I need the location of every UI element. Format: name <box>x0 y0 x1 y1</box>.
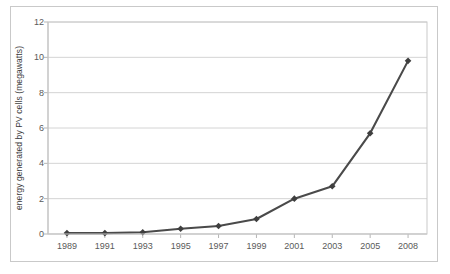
x-axis-tick-labels: 1989199119931995199719992001200320052008 <box>0 241 450 257</box>
x-tick-marks <box>67 234 408 238</box>
y-tick-label: 6 <box>20 123 44 133</box>
line-chart <box>0 0 450 274</box>
y-axis-tick-labels: 024681012 <box>18 0 44 274</box>
x-tick-label: 2008 <box>386 241 430 251</box>
y-tick-label: 0 <box>20 229 44 239</box>
y-tick-label: 8 <box>20 88 44 98</box>
y-tick-label: 10 <box>20 52 44 62</box>
y-tick-marks <box>44 22 48 234</box>
y-tick-label: 4 <box>20 158 44 168</box>
y-tick-label: 2 <box>20 194 44 204</box>
y-tick-label: 12 <box>20 17 44 27</box>
